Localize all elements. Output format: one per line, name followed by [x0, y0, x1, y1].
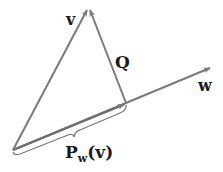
- label-q: Q: [115, 52, 130, 72]
- label-w: w: [197, 76, 213, 95]
- label-projection: Pw(v): [65, 142, 113, 165]
- label-projection-sub: w: [77, 152, 88, 165]
- label-v: v: [65, 10, 76, 29]
- label-projection-arg: (v): [87, 142, 113, 162]
- projection-diagram: v Q w Pw(v): [0, 0, 223, 172]
- label-projection-main: P: [65, 142, 78, 162]
- vector-v: [13, 10, 87, 150]
